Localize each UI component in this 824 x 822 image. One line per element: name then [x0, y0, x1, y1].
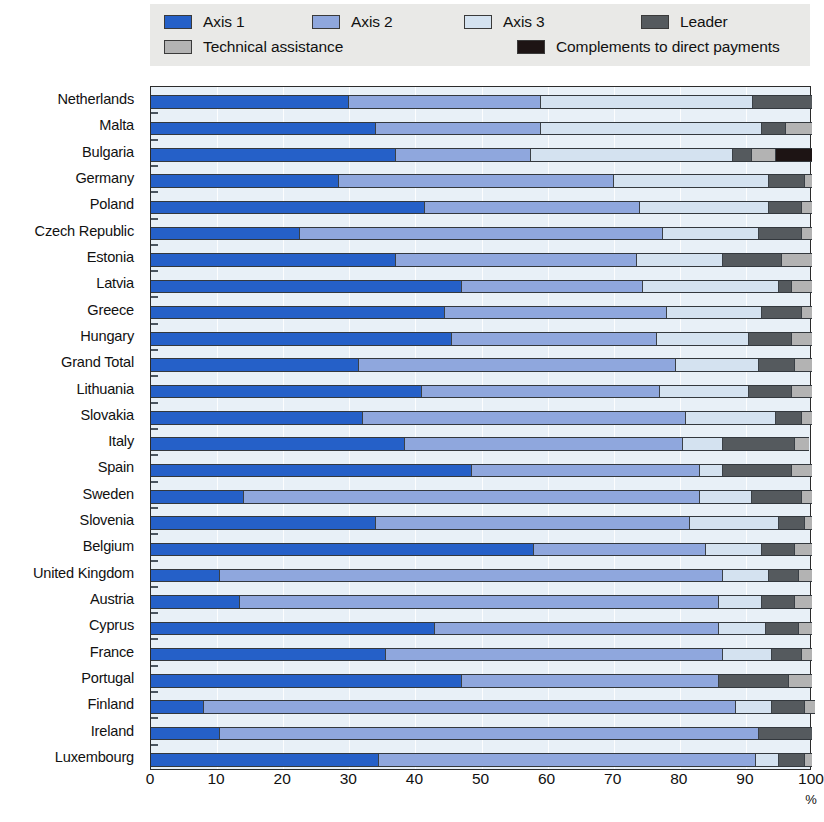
- bar-segment[interactable]: [753, 96, 812, 108]
- bar-segment[interactable]: [776, 149, 812, 161]
- bar-segment[interactable]: [719, 596, 762, 608]
- bar-segment[interactable]: [723, 649, 773, 661]
- stacked-bar[interactable]: [151, 569, 812, 583]
- bar-segment[interactable]: [151, 465, 472, 477]
- bar-segment[interactable]: [786, 123, 812, 135]
- bar-segment[interactable]: [782, 254, 812, 266]
- bar-segment[interactable]: [204, 701, 736, 713]
- bar-segment[interactable]: [151, 281, 462, 293]
- bar-segment[interactable]: [706, 544, 762, 556]
- stacked-bar[interactable]: [151, 411, 812, 425]
- bar-segment[interactable]: [723, 570, 769, 582]
- bar-segment[interactable]: [802, 491, 812, 503]
- stacked-bar[interactable]: [151, 358, 812, 372]
- stacked-bar[interactable]: [151, 227, 812, 241]
- bar-segment[interactable]: [802, 307, 812, 319]
- stacked-bar[interactable]: [151, 490, 812, 504]
- bar-segment[interactable]: [799, 623, 812, 635]
- bar-segment[interactable]: [151, 623, 435, 635]
- bar-segment[interactable]: [151, 386, 422, 398]
- bar-segment[interactable]: [792, 281, 812, 293]
- bar-segment[interactable]: [643, 281, 779, 293]
- bar-segment[interactable]: [792, 465, 812, 477]
- stacked-bar[interactable]: [151, 148, 812, 162]
- bar-segment[interactable]: [531, 149, 733, 161]
- bar-segment[interactable]: [759, 228, 802, 240]
- stacked-bar[interactable]: [151, 174, 812, 188]
- bar-segment[interactable]: [396, 254, 637, 266]
- bar-segment[interactable]: [752, 491, 802, 503]
- bar-segment[interactable]: [792, 386, 812, 398]
- bar-segment[interactable]: [733, 149, 753, 161]
- bar-segment[interactable]: [676, 359, 759, 371]
- bar-segment[interactable]: [379, 754, 756, 766]
- bar-segment[interactable]: [151, 123, 376, 135]
- bar-segment[interactable]: [802, 228, 812, 240]
- bar-segment[interactable]: [772, 701, 805, 713]
- bar-segment[interactable]: [445, 307, 666, 319]
- bar-segment[interactable]: [795, 359, 812, 371]
- bar-segment[interactable]: [799, 570, 812, 582]
- bar-segment[interactable]: [805, 517, 812, 529]
- stacked-bar[interactable]: [151, 543, 812, 557]
- bar-segment[interactable]: [396, 149, 532, 161]
- bar-segment[interactable]: [667, 307, 763, 319]
- bar-segment[interactable]: [792, 333, 812, 345]
- bar-segment[interactable]: [435, 623, 719, 635]
- bar-segment[interactable]: [759, 359, 795, 371]
- bar-segment[interactable]: [772, 649, 802, 661]
- bar-segment[interactable]: [376, 123, 541, 135]
- stacked-bar[interactable]: [151, 95, 812, 109]
- bar-segment[interactable]: [534, 544, 706, 556]
- stacked-bar[interactable]: [151, 385, 812, 399]
- bar-segment[interactable]: [462, 281, 644, 293]
- bar-segment[interactable]: [405, 438, 683, 450]
- bar-segment[interactable]: [640, 202, 769, 214]
- bar-segment[interactable]: [151, 491, 244, 503]
- bar-segment[interactable]: [151, 359, 359, 371]
- bar-segment[interactable]: [762, 596, 795, 608]
- bar-segment[interactable]: [762, 544, 795, 556]
- bar-segment[interactable]: [637, 254, 723, 266]
- bar-segment[interactable]: [686, 412, 775, 424]
- bar-segment[interactable]: [151, 307, 445, 319]
- bar-segment[interactable]: [151, 333, 452, 345]
- stacked-bar[interactable]: [151, 622, 812, 636]
- bar-segment[interactable]: [660, 386, 749, 398]
- bar-segment[interactable]: [769, 570, 799, 582]
- bar-segment[interactable]: [151, 149, 396, 161]
- bar-segment[interactable]: [151, 675, 462, 687]
- stacked-bar[interactable]: [151, 595, 812, 609]
- bar-segment[interactable]: [795, 544, 812, 556]
- bar-segment[interactable]: [759, 728, 812, 740]
- bar-segment[interactable]: [151, 544, 534, 556]
- bar-segment[interactable]: [779, 281, 792, 293]
- bar-segment[interactable]: [151, 701, 204, 713]
- bar-segment[interactable]: [425, 202, 640, 214]
- stacked-bar[interactable]: [151, 306, 812, 320]
- bar-segment[interactable]: [700, 465, 723, 477]
- bar-segment[interactable]: [614, 175, 769, 187]
- bar-segment[interactable]: [151, 96, 349, 108]
- bar-segment[interactable]: [151, 228, 300, 240]
- bar-segment[interactable]: [769, 175, 805, 187]
- bar-segment[interactable]: [802, 412, 812, 424]
- bar-segment[interactable]: [472, 465, 700, 477]
- bar-segment[interactable]: [151, 202, 425, 214]
- bar-segment[interactable]: [795, 596, 812, 608]
- bar-segment[interactable]: [723, 254, 782, 266]
- bar-segment[interactable]: [749, 386, 792, 398]
- bar-segment[interactable]: [220, 728, 759, 740]
- stacked-bar[interactable]: [151, 280, 812, 294]
- bar-segment[interactable]: [700, 491, 753, 503]
- bar-segment[interactable]: [462, 675, 720, 687]
- bar-segment[interactable]: [802, 649, 812, 661]
- bar-segment[interactable]: [779, 517, 805, 529]
- stacked-bar[interactable]: [151, 674, 812, 688]
- bar-segment[interactable]: [422, 386, 660, 398]
- bar-segment[interactable]: [151, 254, 396, 266]
- bar-segment[interactable]: [657, 333, 750, 345]
- stacked-bar[interactable]: [151, 437, 809, 451]
- bar-segment[interactable]: [766, 623, 799, 635]
- bar-segment[interactable]: [723, 438, 796, 450]
